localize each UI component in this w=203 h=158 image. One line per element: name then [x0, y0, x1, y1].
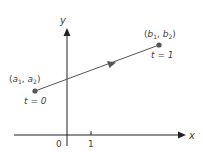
start-point-label: (a1, a2): [9, 74, 40, 85]
parametric-line-diagram: x y 0 1 (a1, a2) t = 0 (b1, b2) t = 1: [0, 0, 203, 158]
end-point-label: (b1, b2): [144, 29, 176, 40]
origin-label: 0: [56, 139, 62, 149]
end-param-label: t = 1: [151, 50, 174, 60]
y-axis-label: y: [59, 15, 67, 26]
start-point: [32, 88, 37, 93]
x-axis-arrow-icon: [178, 132, 186, 139]
direction-arrow-icon: [107, 61, 116, 68]
y-axis-arrow-icon: [64, 28, 71, 36]
line-segment: [35, 45, 159, 91]
end-point: [156, 42, 161, 47]
start-param-label: t = 0: [24, 96, 47, 106]
x-axis-label: x: [188, 130, 195, 141]
tick-label-1: 1: [88, 139, 94, 149]
